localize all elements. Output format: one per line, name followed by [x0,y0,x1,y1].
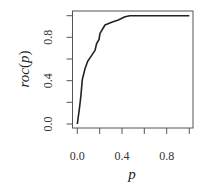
y-axis-title-prefix: roc [16,68,32,88]
x-tick-label: 0.0 [70,149,85,163]
x-tick-label: 0.4 [115,149,130,163]
roc-curve [77,16,189,124]
y-tick-label: 0.0 [41,117,55,132]
x-axis [77,128,189,134]
y-tick-label: 0.4 [41,73,55,88]
y-tick-label: 0.8 [41,30,55,45]
roc-chart: 0.0 0.4 0.8 0.0 0.4 0.8 p roc(p) [0,0,201,192]
plot-frame [73,11,194,128]
x-axis-title: p [127,166,136,182]
y-axis-title: roc(p) [16,51,33,88]
x-tick-label: 0.8 [159,149,174,163]
y-axis [67,16,73,124]
